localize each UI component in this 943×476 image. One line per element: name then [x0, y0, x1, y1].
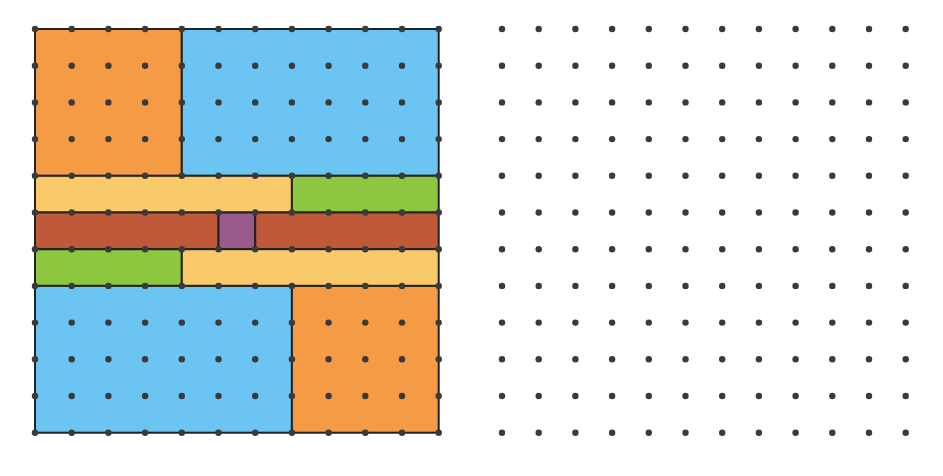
piece-brick-strip-right: [255, 213, 439, 250]
grid-dot: [792, 99, 798, 105]
grid-dot: [829, 209, 835, 215]
grid-dot: [32, 356, 38, 362]
grid-dot: [325, 356, 331, 362]
grid-dot: [572, 26, 578, 32]
grid-dot: [436, 209, 442, 215]
grid-dot: [179, 430, 185, 436]
grid-dot: [829, 62, 835, 68]
grid-dot: [362, 173, 368, 179]
grid-dot: [399, 136, 405, 142]
grid-dot: [719, 283, 725, 289]
grid-dot: [719, 173, 725, 179]
grid-dot: [572, 136, 578, 142]
grid-dot: [572, 173, 578, 179]
grid-dot: [289, 430, 295, 436]
grid-dot: [179, 209, 185, 215]
grid-dot: [32, 99, 38, 105]
grid-dot: [69, 136, 75, 142]
grid-dot: [682, 393, 688, 399]
grid-dot: [499, 173, 505, 179]
grid-dot: [252, 246, 258, 252]
grid-dot: [436, 173, 442, 179]
grid-dot: [499, 209, 505, 215]
grid-dot: [756, 393, 762, 399]
grid-dot: [646, 356, 652, 362]
grid-dot: [792, 283, 798, 289]
grid-dot: [756, 99, 762, 105]
grid-dot: [756, 173, 762, 179]
grid-dot: [289, 283, 295, 289]
grid-dot: [252, 430, 258, 436]
grid-dot: [215, 62, 221, 68]
grid-dot: [179, 283, 185, 289]
grid-dot: [572, 209, 578, 215]
grid-dot: [646, 99, 652, 105]
grid-dot: [289, 173, 295, 179]
grid-dot: [252, 136, 258, 142]
grid-dot: [792, 356, 798, 362]
grid-dot: [499, 99, 505, 105]
grid-dot: [499, 62, 505, 68]
grid-dot: [399, 393, 405, 399]
grid-dot: [829, 356, 835, 362]
grid-dot: [436, 62, 442, 68]
grid-dot: [572, 430, 578, 436]
grid-dot: [646, 26, 652, 32]
grid-dot: [572, 283, 578, 289]
grid-dot: [756, 26, 762, 32]
grid-dot: [325, 246, 331, 252]
grid-dot: [215, 283, 221, 289]
grid-dot: [399, 246, 405, 252]
figure-canvas: [0, 0, 943, 476]
grid-dot: [719, 136, 725, 142]
grid-dot: [536, 99, 542, 105]
grid-dot: [646, 393, 652, 399]
grid-dot: [499, 283, 505, 289]
grid-dot: [289, 356, 295, 362]
grid-dot: [289, 209, 295, 215]
grid-dot: [399, 173, 405, 179]
grid-dot: [436, 430, 442, 436]
grid-dot: [609, 283, 615, 289]
grid-dot: [646, 136, 652, 142]
grid-dot: [866, 393, 872, 399]
grid-dot: [792, 209, 798, 215]
grid-dot: [32, 430, 38, 436]
grid-dot: [252, 356, 258, 362]
grid-dot: [289, 136, 295, 142]
grid-dot: [69, 26, 75, 32]
grid-dot: [69, 356, 75, 362]
grid-dot: [682, 209, 688, 215]
grid-dot: [436, 246, 442, 252]
grid-dot: [903, 209, 909, 215]
grid-dot: [829, 136, 835, 142]
grid-dot: [252, 173, 258, 179]
grid-dot: [252, 319, 258, 325]
grid-dot: [682, 62, 688, 68]
grid-dot: [142, 173, 148, 179]
grid-dot: [756, 283, 762, 289]
grid-dot: [682, 246, 688, 252]
grid-dot: [866, 356, 872, 362]
grid-dot: [69, 62, 75, 68]
grid-dot: [572, 393, 578, 399]
grid-dot: [903, 26, 909, 32]
piece-green-strip-1: [292, 176, 439, 213]
grid-dot: [252, 99, 258, 105]
grid-dot: [32, 136, 38, 142]
grid-dot: [609, 136, 615, 142]
grid-dot: [362, 99, 368, 105]
grid-dot: [325, 136, 331, 142]
grid-dot: [829, 246, 835, 252]
piece-brick-strip-left: [35, 213, 219, 250]
grid-dot: [866, 99, 872, 105]
grid-dot: [792, 393, 798, 399]
grid-dot: [105, 99, 111, 105]
grid-dot: [646, 209, 652, 215]
grid-dot: [572, 62, 578, 68]
grid-dot: [719, 62, 725, 68]
grid-dot: [536, 173, 542, 179]
grid-dot: [105, 319, 111, 325]
grid-dot: [105, 62, 111, 68]
grid-dot: [536, 356, 542, 362]
